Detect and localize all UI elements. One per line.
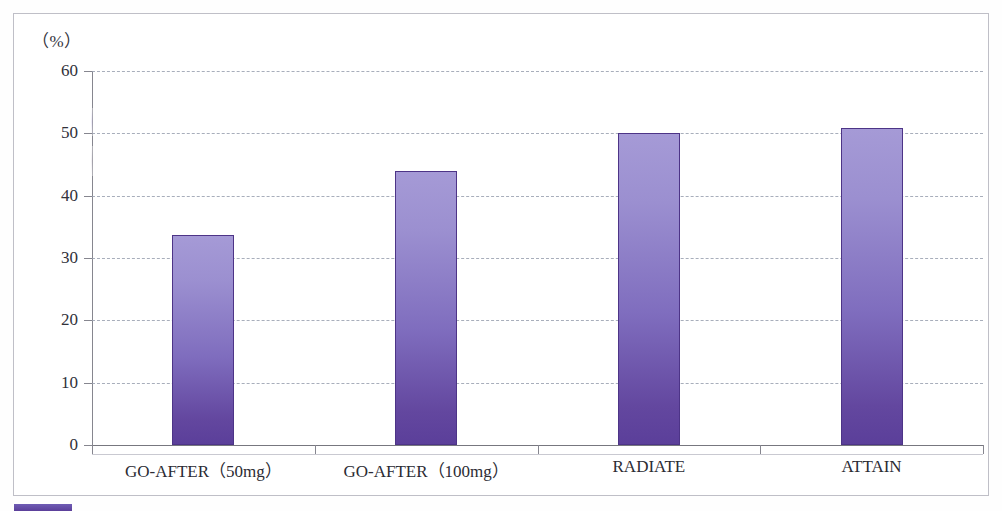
gridline	[92, 71, 983, 72]
y-tick-mark	[84, 71, 92, 72]
y-tick-mark	[84, 258, 92, 259]
y-tick-label: 10	[0, 373, 78, 393]
y-tick-label: 20	[0, 310, 78, 330]
x-tick-mark	[760, 445, 761, 454]
y-tick-mark	[84, 320, 92, 321]
bar-chart: （%） 0102030405060 GO-AFTER（50mg）GO-AFTER…	[0, 0, 1002, 511]
y-tick-mark	[84, 133, 92, 134]
scan-artifact	[91, 108, 93, 136]
x-axis-category-label: RADIATE	[538, 457, 761, 477]
y-tick-label: 50	[0, 123, 78, 143]
bar	[395, 171, 457, 445]
x-axis-underline	[92, 454, 983, 455]
x-axis-category-label: GO-AFTER（50mg）	[92, 457, 315, 482]
bar	[841, 128, 903, 445]
scanned-page: （%） 0102030405060 GO-AFTER（50mg）GO-AFTER…	[0, 0, 1002, 511]
caption-strip	[0, 504, 1002, 511]
bar	[618, 133, 680, 445]
y-tick-label: 60	[0, 61, 78, 81]
x-tick-mark	[92, 445, 93, 454]
y-tick-label: 30	[0, 248, 78, 268]
x-axis-category-label: GO-AFTER（100mg）	[315, 457, 538, 482]
y-tick-mark	[84, 445, 92, 446]
x-tick-mark	[315, 445, 316, 454]
y-tick-label: 40	[0, 186, 78, 206]
x-tick-mark	[983, 445, 984, 454]
y-axis-unit-label: （%）	[32, 27, 82, 52]
x-tick-mark	[538, 445, 539, 454]
caption-color-swatch	[14, 504, 72, 511]
scan-artifact	[91, 146, 93, 176]
y-tick-mark	[84, 196, 92, 197]
bar	[172, 235, 234, 445]
y-tick-mark	[84, 383, 92, 384]
y-tick-label: 0	[0, 435, 78, 455]
x-axis-category-label: ATTAIN	[760, 457, 983, 477]
